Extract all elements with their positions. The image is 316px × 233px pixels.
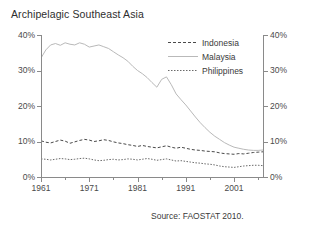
y-tick-label-left: 30% xyxy=(18,65,35,75)
y-tick-label-right: 10% xyxy=(270,136,287,146)
y-tick-right xyxy=(264,71,268,72)
y-tick-label-left: 0% xyxy=(23,172,35,182)
y-tick-label-right: 20% xyxy=(270,101,287,111)
y-tick-label-right: 0% xyxy=(270,172,282,182)
legend-swatch-indonesia-icon xyxy=(168,38,198,47)
x-tick-minor xyxy=(113,178,114,180)
legend-item-malaysia[interactable]: Malaysia xyxy=(168,50,243,63)
x-tick-label: 1991 xyxy=(176,183,195,193)
x-tick-minor xyxy=(258,178,259,180)
x-tick-major xyxy=(138,178,139,182)
y-tick-right xyxy=(264,35,268,36)
legend: Indonesia Malaysia Philippines xyxy=(168,36,243,77)
y-tick-label-right: 40% xyxy=(270,30,287,40)
y-axis-left xyxy=(41,35,42,178)
y-tick-label-right: 30% xyxy=(270,65,287,75)
series-line-philippines xyxy=(41,158,263,167)
series-line-indonesia xyxy=(41,139,263,154)
x-tick-major xyxy=(234,178,235,182)
y-tick-right xyxy=(264,142,268,143)
legend-item-indonesia[interactable]: Indonesia xyxy=(168,36,243,49)
x-tick-label: 2001 xyxy=(225,183,244,193)
y-tick-label-left: 10% xyxy=(18,136,35,146)
legend-label-malaysia: Malaysia xyxy=(202,52,236,62)
legend-label-philippines: Philippines xyxy=(202,66,243,76)
x-tick-minor xyxy=(210,178,211,180)
y-tick-label-left: 40% xyxy=(18,30,35,40)
y-tick-left xyxy=(37,106,41,107)
x-tick-minor xyxy=(65,178,66,180)
x-tick-minor xyxy=(162,178,163,180)
legend-item-philippines[interactable]: Philippines xyxy=(168,64,243,77)
x-tick-label: 1961 xyxy=(32,183,51,193)
chart-figure: Archipelagic Southeast Asia 0%0%10%10%20… xyxy=(0,0,316,233)
y-tick-left xyxy=(37,142,41,143)
y-tick-right xyxy=(264,177,268,178)
y-tick-left xyxy=(37,71,41,72)
y-tick-right xyxy=(264,106,268,107)
x-axis xyxy=(41,177,264,178)
x-tick-major xyxy=(186,178,187,182)
y-tick-label-left: 20% xyxy=(18,101,35,111)
x-tick-label: 1971 xyxy=(80,183,99,193)
source-note: Source: FAOSTAT 2010. xyxy=(151,211,244,221)
y-tick-left xyxy=(37,35,41,36)
x-tick-major xyxy=(89,178,90,182)
legend-swatch-philippines-icon xyxy=(168,66,198,75)
legend-swatch-malaysia-icon xyxy=(168,52,198,61)
x-tick-label: 1981 xyxy=(128,183,147,193)
page-title: Archipelagic Southeast Asia xyxy=(11,8,144,20)
x-tick-major xyxy=(41,178,42,182)
legend-label-indonesia: Indonesia xyxy=(202,38,239,48)
